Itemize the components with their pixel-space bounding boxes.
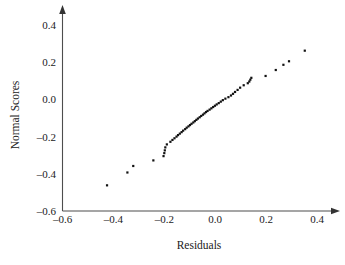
y-tick-label: –0.4	[36, 168, 57, 180]
data-point	[288, 60, 290, 62]
x-axis-arrow-icon	[331, 208, 340, 214]
y-tick-label: 0.0	[42, 93, 56, 105]
data-point	[239, 87, 241, 89]
data-points-group	[106, 50, 306, 187]
y-tick-label: 0.4	[42, 19, 56, 31]
data-point	[243, 84, 245, 86]
qq-plot-figure: –0.6–0.4–0.20.00.20.4 –0.6–0.4–0.20.00.2…	[0, 0, 345, 265]
data-point	[264, 75, 266, 77]
data-point	[218, 102, 220, 104]
data-point	[206, 110, 208, 112]
x-tick-label: 0.2	[259, 213, 273, 225]
data-point	[164, 146, 166, 148]
x-tick-label: –0.2	[154, 213, 174, 225]
data-point	[222, 99, 224, 101]
data-point	[169, 141, 171, 143]
data-point	[224, 98, 226, 100]
y-axis-arrow-icon	[59, 5, 66, 14]
data-point	[236, 89, 238, 91]
data-point	[282, 64, 284, 66]
y-tick-label: –0.6	[36, 205, 57, 217]
y-axis-title: Normal Scores	[9, 80, 21, 149]
x-tick-label: 0.4	[310, 213, 324, 225]
x-axis-title: Residuals	[177, 239, 222, 251]
x-tick-label: –0.4	[103, 213, 124, 225]
data-point	[234, 91, 236, 93]
data-point	[171, 139, 173, 141]
data-point	[304, 50, 306, 52]
data-point	[164, 149, 166, 151]
data-point	[227, 96, 229, 98]
data-point	[162, 155, 164, 157]
data-point	[220, 101, 222, 103]
data-point	[216, 103, 218, 105]
data-point	[152, 159, 154, 161]
y-tick-label: –0.2	[36, 131, 56, 143]
y-tick-labels: –0.6–0.4–0.20.00.20.4	[36, 19, 57, 217]
data-point	[182, 130, 184, 132]
data-point	[230, 94, 232, 96]
data-point	[166, 143, 168, 145]
x-tick-label: 0.0	[208, 213, 222, 225]
axis-group	[59, 5, 340, 214]
data-point	[126, 171, 128, 173]
data-point	[275, 69, 277, 71]
scatter-plot-canvas: –0.6–0.4–0.20.00.20.4 –0.6–0.4–0.20.00.2…	[0, 0, 345, 265]
data-point	[106, 184, 108, 186]
y-tick-label: 0.2	[42, 56, 56, 68]
data-point	[232, 93, 234, 95]
data-point	[132, 165, 134, 167]
x-tick-labels: –0.6–0.4–0.20.00.20.4	[52, 213, 325, 225]
data-point	[173, 137, 175, 139]
data-point	[250, 77, 252, 79]
data-point	[163, 152, 165, 154]
